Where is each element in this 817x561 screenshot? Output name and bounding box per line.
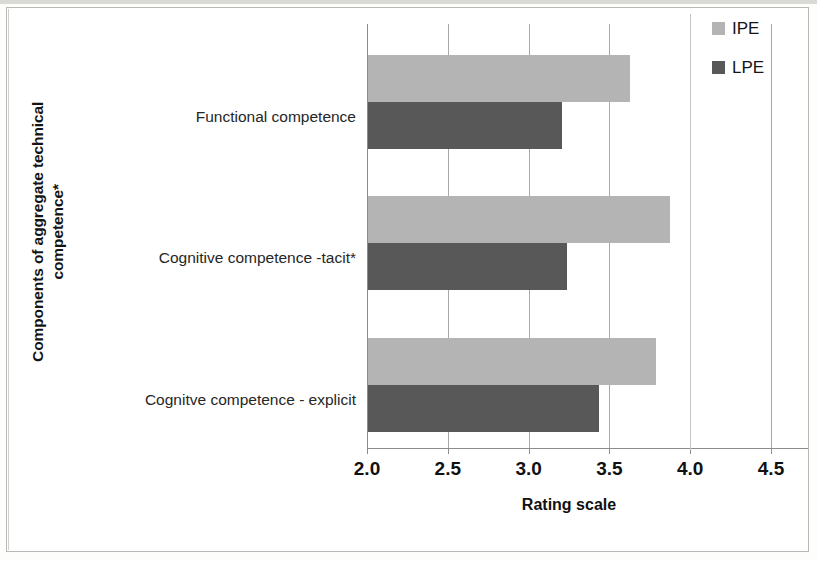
y-axis-title-line1: Components of aggregate technical xyxy=(29,102,46,362)
chart-legend: IPE LPE xyxy=(712,20,808,98)
bar-lpe-0 xyxy=(368,102,562,149)
bar-ipe-2 xyxy=(368,338,656,385)
y-axis-category-labels: Functional competence Cognitive competen… xyxy=(56,24,362,448)
legend-item-ipe: IPE xyxy=(712,20,808,37)
x-tick-label-2.0: 2.0 xyxy=(337,458,397,480)
x-axis-line xyxy=(367,448,808,449)
plot-area xyxy=(367,24,771,448)
x-axis-tick-2.0 xyxy=(367,448,368,454)
legend-label-ipe: IPE xyxy=(732,20,759,37)
x-tick-label-3.5: 3.5 xyxy=(579,458,639,480)
legend-label-lpe: LPE xyxy=(732,59,764,76)
grouped-bar-chart: Components of aggregate technical compet… xyxy=(0,0,817,561)
category-label-functional-competence: Functional competence xyxy=(56,108,356,127)
bar-ipe-1 xyxy=(368,196,670,243)
x-tick-label-3.0: 3.0 xyxy=(499,458,559,480)
x-axis-tick-3.5 xyxy=(609,448,610,454)
bar-lpe-1 xyxy=(368,243,567,290)
x-tick-label-2.5: 2.5 xyxy=(418,458,478,480)
legend-swatch-ipe-icon xyxy=(712,22,725,35)
bar-lpe-2 xyxy=(368,385,599,432)
scanned-figure-page: Components of aggregate technical compet… xyxy=(0,0,817,561)
category-label-cognitive-competence-explicit: Cognitve competence - explicit xyxy=(56,391,356,410)
legend-item-lpe: LPE xyxy=(712,59,808,76)
bar-ipe-0 xyxy=(368,55,630,102)
x-axis-tick-2.5 xyxy=(448,448,449,454)
legend-swatch-lpe-icon xyxy=(712,61,725,74)
x-axis-tick-4.5 xyxy=(771,448,772,454)
legend-divider xyxy=(690,14,691,450)
x-tick-label-4.0: 4.0 xyxy=(660,458,720,480)
x-axis-title: Rating scale xyxy=(367,496,771,514)
x-axis-tick-labels: 2.02.53.03.54.04.5 xyxy=(367,458,817,488)
x-axis-tick-3.0 xyxy=(529,448,530,454)
x-tick-label-4.5: 4.5 xyxy=(741,458,801,480)
category-label-cognitive-competence-tacit: Cognitive competence -tacit* xyxy=(56,249,356,268)
